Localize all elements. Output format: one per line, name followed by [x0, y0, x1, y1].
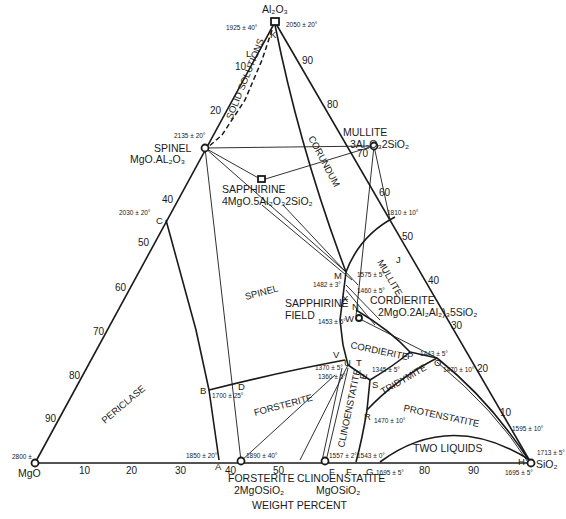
svg-text:40: 40 [428, 275, 440, 286]
point-a: A [215, 461, 222, 472]
point-s: S [372, 379, 378, 390]
temp-o: 1470 ± 10° [443, 366, 475, 373]
spinel-formula: MgO.AL₂O₃ [130, 153, 185, 165]
field-spinel: SPINEL [244, 283, 279, 302]
svg-text:10: 10 [235, 61, 247, 72]
point-f2: F [346, 466, 352, 477]
temp-s: 1345 ± 5° [372, 366, 400, 373]
svg-text:80: 80 [419, 465, 431, 476]
mgo-marker [32, 460, 39, 467]
point-u: U [344, 357, 351, 368]
svg-text:50: 50 [273, 465, 285, 476]
weight-percent-label: WEIGHT PERCENT [252, 499, 347, 511]
temp-w: 1453 ± 5° [318, 318, 346, 325]
mgo-label: MgO [18, 467, 41, 479]
sio2-label: SiO₂ [536, 458, 558, 470]
temp-v: 1370 ± 5° [315, 364, 343, 371]
svg-text:80: 80 [327, 99, 339, 110]
point-n: N [352, 301, 359, 312]
svg-text:30: 30 [175, 465, 187, 476]
svg-text:30: 30 [451, 320, 463, 331]
field-corundum: CORUNDUM [306, 134, 342, 189]
svg-text:90: 90 [302, 55, 314, 66]
point-r: R [364, 411, 371, 422]
svg-text:90: 90 [468, 465, 480, 476]
temp-near-h: 1595 ± 10° [512, 425, 544, 432]
point-j: J [396, 254, 401, 265]
triangle-frame [35, 22, 531, 463]
field-solid-solutions: SOLID SOLUTIONS [224, 37, 266, 121]
svg-text:60: 60 [379, 187, 391, 198]
svg-text:20: 20 [477, 363, 489, 374]
point-w: W [345, 313, 354, 324]
point-c: C [156, 215, 163, 226]
temp-n: 1460 ± 5° [357, 287, 385, 294]
point-d: D [238, 381, 245, 392]
cordierite-marker [356, 315, 362, 321]
forsterite-formula: 2MgOSiO₂ [234, 484, 284, 496]
cordierite-formula: 2MgO.2Al₂Al₂)₃5SiO₂ [378, 306, 477, 318]
cordierite-name: CORDIERITE [370, 294, 435, 306]
spinel-temp: 2135 ± 20° [174, 132, 206, 139]
point-l: L [246, 48, 251, 59]
sio2-marker [528, 460, 535, 467]
svg-text:90: 90 [45, 413, 57, 424]
temp-r: 1470 ± 10° [374, 417, 406, 424]
point-b: B [200, 385, 206, 396]
field-two-liquids: TWO LIQUIDS [413, 442, 482, 454]
point-g: G [366, 466, 373, 477]
point-x: X [342, 293, 349, 304]
point-p: P [407, 350, 413, 361]
point-o: O [434, 357, 441, 368]
svg-text:10: 10 [500, 407, 512, 418]
mullite-name: MULLITE [343, 126, 387, 138]
clinoenstatite-marker [322, 458, 329, 465]
sapphirine-formula: 4MgO.5Al₂O₃2SiO₂ [222, 195, 313, 207]
temp-g-top: 1543 ± 0° [357, 452, 385, 459]
ternary-phase-diagram: Al₂O₃ 1925 ± 40° 2050 ± 20° K MgO 2800 ±… [0, 0, 566, 519]
svg-text:60: 60 [115, 282, 127, 293]
temp-p: 1443 ± 5° [420, 350, 448, 357]
field-forsterite: FORSTERITE [253, 392, 314, 418]
svg-text:20: 20 [210, 105, 222, 116]
forsterite-name: FORSTERITE [228, 472, 295, 484]
field-sapphirine-2: FIELD [285, 309, 315, 321]
al2o3-marker [271, 18, 279, 25]
point-f1: F [329, 466, 335, 477]
svg-text:40: 40 [225, 465, 237, 476]
sio2-temp-bottom: 1695 ± 5° [505, 469, 533, 476]
field-periclase: PERICLASE [99, 383, 147, 426]
temp-m: 1575 ± 5° [357, 271, 385, 278]
svg-text:20: 20 [126, 465, 138, 476]
svg-text:50: 50 [138, 237, 150, 248]
svg-text:10: 10 [79, 465, 91, 476]
point-h: H [518, 456, 525, 467]
temp-x: 1482 ± 3° [313, 281, 341, 288]
temp-b: 1700 ± 25° [212, 392, 244, 399]
sapphirine-marker [258, 176, 265, 182]
clinoenstatite-temp: 1557 ± 2° [329, 452, 357, 459]
field-protenstatite: PROTENSTATITE [403, 402, 481, 429]
sio2-temp-top: 1713 ± 5° [537, 449, 565, 456]
point-m: M [334, 270, 342, 281]
forsterite-marker [238, 458, 245, 465]
temp-c: 2030 ± 20° [119, 209, 151, 216]
svg-text:50: 50 [402, 231, 414, 242]
left-axis-ticks: 10 20 40 50 60 70 80 90 [45, 61, 247, 424]
point-v: V [333, 349, 340, 360]
al2o3-temp-right: 2050 ± 20° [286, 21, 318, 28]
mgo-temp: 2800 ± [12, 453, 32, 460]
point-e: E [357, 372, 369, 380]
bottom-axis-ticks: 10 20 30 40 50 80 90 [79, 465, 480, 476]
sapphirine-name: SAPPHIRINE [222, 183, 286, 195]
svg-text:80: 80 [69, 370, 81, 381]
point-k: K [270, 29, 277, 40]
clinoenstatite-formula: MgOSiO₂ [316, 484, 360, 496]
svg-text:40: 40 [162, 194, 174, 205]
point-t: T [356, 357, 362, 368]
spinel-marker [202, 145, 209, 152]
temp-u: 1360 ± 5° [318, 373, 346, 380]
al2o3-label: Al₂O₃ [262, 3, 288, 15]
temp-g: 1695 ± 5° [376, 469, 404, 476]
temp-a: 1850 ± 20° [186, 452, 218, 459]
